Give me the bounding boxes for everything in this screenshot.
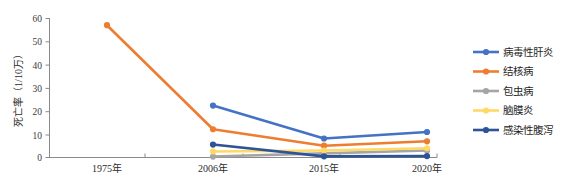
legend-item[interactable]: 包虫病 (473, 85, 534, 97)
x-tick-label: 2006年 (198, 162, 228, 174)
legend-label: 包虫病 (503, 85, 534, 97)
data-point-marker (104, 22, 110, 28)
y-axis-tick-labels: 60 50 40 30 20 10 0 (33, 14, 43, 163)
series-1 (210, 103, 430, 142)
legend-swatch-marker (483, 49, 489, 55)
data-point-marker (321, 135, 327, 141)
data-point-marker (321, 147, 327, 153)
series-layer (104, 22, 430, 160)
chart-legend: 病毒性肝炎结核病包虫病脑膜炎感染性腹泻 (473, 46, 554, 136)
x-tick-label: 2015年 (309, 162, 339, 174)
y-tick-label: 0 (37, 153, 42, 163)
chart-canvas: 60 50 40 30 20 10 0 死亡率（1/10万） 1975年 200… (0, 0, 568, 188)
legend-label: 脑膜炎 (503, 104, 534, 116)
x-tick-label: 1975年 (92, 162, 122, 174)
data-point-marker (424, 145, 430, 151)
y-tick-label: 10 (33, 131, 43, 141)
series-line (107, 25, 427, 145)
legend-swatch-marker (483, 88, 489, 94)
y-tick-label: 20 (33, 107, 43, 117)
data-point-marker (424, 138, 430, 144)
y-tick-label: 30 (33, 84, 43, 94)
legend-swatch-marker (483, 107, 489, 113)
line-chart: 60 50 40 30 20 10 0 死亡率（1/10万） 1975年 200… (0, 0, 568, 188)
legend-item[interactable]: 感染性腹泻 (473, 124, 553, 136)
data-point-marker (210, 103, 216, 109)
data-point-marker (424, 129, 430, 135)
data-point-marker (210, 141, 216, 147)
y-tick-label: 50 (33, 37, 43, 47)
legend-item[interactable]: 脑膜炎 (473, 104, 534, 116)
data-point-marker (210, 126, 216, 132)
legend-label: 感染性腹泻 (503, 124, 553, 136)
y-tick-label: 40 (33, 61, 43, 71)
series-2 (104, 22, 430, 149)
legend-swatch-marker (483, 68, 489, 74)
data-point-marker (321, 153, 327, 159)
legend-label: 病毒性肝炎 (503, 46, 554, 58)
legend-label: 结核病 (503, 65, 534, 77)
data-point-marker (210, 148, 216, 154)
y-axis-title: 死亡率（1/10万） (12, 49, 24, 127)
legend-swatch-marker (483, 127, 489, 133)
data-point-marker (424, 153, 430, 159)
x-axis-tick-labels: 1975年 2006年 2015年 2020年 (92, 162, 442, 174)
y-tick-label: 60 (33, 14, 43, 24)
legend-item[interactable]: 结核病 (473, 65, 534, 77)
y-axis-ticks (46, 19, 50, 158)
x-tick-label: 2020年 (412, 162, 442, 174)
legend-item[interactable]: 病毒性肝炎 (473, 46, 554, 58)
